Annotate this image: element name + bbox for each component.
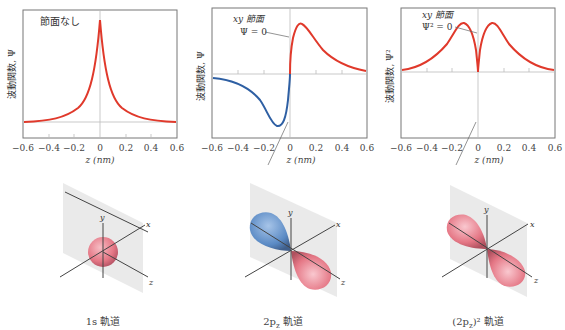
- svg-text:−0.2: −0.2: [441, 143, 463, 153]
- svg-text:−0.6: −0.6: [12, 143, 34, 153]
- svg-text:−0.4: −0.4: [227, 143, 249, 153]
- plot-1s: 節面なし 波動関数, Ψ −0.6 −0.4 −0.2 0 0.2 0.4 0.…: [0, 0, 190, 165]
- svg-text:−0.2: −0.2: [253, 143, 275, 153]
- svg-text:0.4: 0.4: [144, 143, 159, 153]
- z-axis-label: z: [533, 276, 539, 285]
- annotation-leader: [455, 27, 477, 33]
- annotation-leader: [265, 32, 289, 37]
- plot-2pz-squared: xy 節面 Ψ² = 0 波動関数, Ψ² −0.6 −0.4 −0.2 0 0…: [375, 0, 565, 165]
- caption-suffix: )² 軌道: [473, 316, 504, 327]
- y-axis-label: y: [483, 205, 489, 214]
- annotation-psi-zero: Ψ = 0: [240, 27, 267, 37]
- x-tick-labels: −0.6 −0.4 −0.2 0 0.2 0.4 0.6: [390, 143, 562, 153]
- x-axis-label: x: [146, 220, 151, 229]
- svg-text:0.4: 0.4: [335, 143, 350, 153]
- caption-2pz: 2pz 軌道: [223, 313, 343, 330]
- caption-suffix: 軌道: [280, 316, 303, 327]
- orbital-2pz-squared-diagram: y x z: [375, 165, 565, 305]
- y-axis-label: y: [287, 208, 293, 217]
- caption-text: (2p: [452, 316, 469, 327]
- y-axis-label: 波動関数, Ψ: [195, 51, 206, 101]
- svg-text:0: 0: [475, 143, 481, 153]
- svg-text:0.2: 0.2: [497, 143, 511, 153]
- svg-text:−0.4: −0.4: [416, 143, 438, 153]
- svg-text:0.2: 0.2: [119, 143, 133, 153]
- svg-text:−0.4: −0.4: [38, 143, 60, 153]
- annotation-no-node: 節面なし: [40, 15, 80, 27]
- x-axis-label: z (nm): [85, 155, 115, 165]
- z-axis-label: z: [340, 278, 346, 287]
- svg-text:−0.6: −0.6: [390, 143, 412, 153]
- y-axis-label: 波動関数, Ψ: [6, 49, 17, 99]
- y-axis-label: y: [99, 213, 105, 222]
- psi-2pz-negative-curve: [213, 74, 290, 126]
- caption-1s: 1s 軌道: [43, 313, 163, 328]
- orbital-1s-diagram: y x z: [0, 165, 190, 305]
- caption-2pz-squared: (2pz)² 軌道: [418, 313, 538, 330]
- x-axis-label: z (nm): [474, 155, 504, 165]
- svg-text:−0.6: −0.6: [201, 143, 223, 153]
- psi-2pz-positive-curve: [290, 24, 366, 74]
- svg-text:0: 0: [287, 143, 293, 153]
- x-tick-labels: −0.6 −0.4 −0.2 0 0.2 0.4 0.6: [201, 143, 374, 153]
- x-axis-label: x: [530, 220, 535, 229]
- annotation-nodal-plane: xy 節面: [233, 14, 266, 24]
- x-axis-label: z (nm): [286, 155, 316, 165]
- plot-2pz: xy 節面 Ψ = 0 波動関数, Ψ −0.6 −0.4 −0.2 0 0.2…: [185, 0, 375, 165]
- x-tick-labels: −0.6 −0.4 −0.2 0 0.2 0.4 0.6: [12, 143, 184, 153]
- svg-text:0.2: 0.2: [309, 143, 323, 153]
- svg-text:0.4: 0.4: [522, 143, 537, 153]
- y-axis-label: 波動関数, Ψ²: [384, 49, 395, 103]
- svg-text:−0.2: −0.2: [63, 143, 85, 153]
- x-axis-label: x: [336, 220, 341, 229]
- z-axis-label: z: [148, 278, 154, 287]
- svg-text:0: 0: [97, 143, 103, 153]
- annotation-nodal-plane: xy 節面: [422, 10, 455, 20]
- svg-text:0.6: 0.6: [360, 143, 375, 153]
- orbital-2pz-diagram: y x z: [185, 165, 375, 305]
- svg-text:0.6: 0.6: [548, 143, 563, 153]
- annotation-psi-squared-zero: Ψ² = 0: [422, 22, 453, 32]
- caption-text: 1s 軌道: [86, 316, 121, 327]
- caption-text: 2p: [263, 316, 276, 327]
- svg-text:0.6: 0.6: [170, 143, 185, 153]
